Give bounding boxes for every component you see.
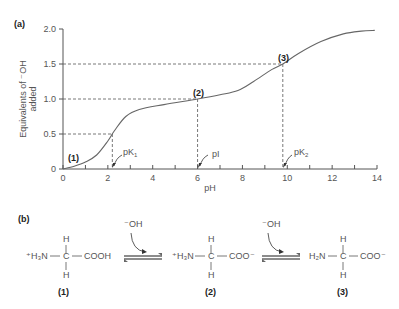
svg-text:H: H [63, 234, 70, 244]
svg-text:pK1: pK1 [123, 147, 138, 158]
x-tick-label: 2 [105, 173, 110, 183]
svg-text:C: C [340, 251, 347, 261]
svg-text:C: C [63, 251, 70, 261]
y-tick-label: 0 [51, 164, 56, 174]
x-tick-label: 4 [150, 173, 155, 183]
y-tick-label: 1.0 [43, 94, 56, 104]
svg-text:Equivalents of ⁻OH: Equivalents of ⁻OH [18, 60, 28, 138]
pk1-annotation: pK1 [112, 147, 138, 168]
x-axis-label: pH [204, 183, 216, 193]
svg-text:H₂N: H₂N [309, 251, 326, 261]
svg-text:H: H [63, 270, 70, 280]
x-tick-label: 6 [195, 173, 200, 183]
svg-text:pK2: pK2 [294, 147, 309, 158]
svg-text:⁺H₃N: ⁺H₃N [172, 251, 194, 261]
x-tick-label: 8 [240, 173, 245, 183]
x-tick-label: 14 [372, 173, 382, 183]
species-2: H ⁺H₃N C COO⁻ H (2) [172, 234, 255, 297]
svg-text:⁺H₃N: ⁺H₃N [26, 251, 48, 261]
x-tick-label: 10 [282, 173, 292, 183]
svg-text:C: C [208, 251, 215, 261]
point-3-label: (3) [278, 53, 289, 63]
pk2-annotation: pK2 [283, 147, 309, 168]
y-tick-label: 1.5 [43, 59, 56, 69]
reference-lines [63, 64, 283, 169]
pi-annotation: pI [198, 149, 220, 168]
svg-text:⁻OH: ⁻OH [124, 219, 143, 229]
svg-text:(1): (1) [58, 287, 69, 297]
svg-text:(2): (2) [205, 287, 216, 297]
x-ticks: 02468101214 [60, 165, 382, 183]
svg-text:H: H [340, 234, 347, 244]
panel-b-label: (b) [18, 214, 30, 224]
y-axis-label: Equivalents of ⁻OH added [18, 60, 38, 138]
svg-text:H: H [208, 270, 215, 280]
species-1: H ⁺H₃N C COOH H (1) [26, 234, 111, 297]
svg-text:COOH: COOH [84, 251, 111, 261]
svg-text:⁻OH: ⁻OH [262, 219, 281, 229]
svg-text:H: H [208, 234, 215, 244]
species-3: H H₂N C COO⁻ H (3) [309, 234, 386, 297]
panel-a-label: (a) [14, 19, 25, 29]
y-tick-label: 2.0 [43, 24, 56, 34]
y-tick-label: 0.5 [43, 129, 56, 139]
equilibrium-arrow-2: ⁻OH [262, 219, 300, 262]
svg-text:COO⁻: COO⁻ [229, 251, 255, 261]
x-tick-label: 0 [60, 173, 65, 183]
point-2-label: (2) [193, 88, 204, 98]
svg-text:(3): (3) [337, 287, 348, 297]
point-1-label: (1) [68, 153, 79, 163]
svg-text:COO⁻: COO⁻ [360, 251, 386, 261]
svg-text:H: H [340, 270, 347, 280]
svg-text:added: added [28, 86, 38, 111]
svg-text:pI: pI [212, 149, 220, 159]
equilibrium-arrow-1: ⁻OH [124, 219, 162, 262]
y-ticks: 00.51.01.52.0 [43, 24, 63, 174]
figure: (a) 00.51.01.52.0 02468101214 pH Equival… [0, 0, 399, 309]
x-tick-label: 12 [327, 173, 337, 183]
